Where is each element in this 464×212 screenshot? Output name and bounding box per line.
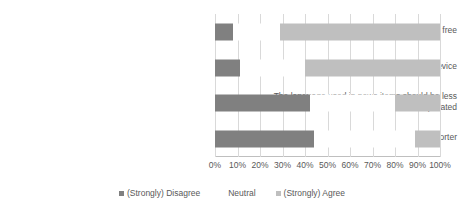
bar-segment[interactable] <box>314 131 415 148</box>
x-tick-label: 60% <box>341 160 358 170</box>
legend-item[interactable]: (Strongly) Agree <box>276 188 345 198</box>
bar-segment[interactable] <box>215 131 314 148</box>
x-tick-label: 40% <box>296 160 313 170</box>
bar-track <box>215 23 440 40</box>
legend-label: Neutral <box>228 188 255 198</box>
x-tick-label: 10% <box>229 160 246 170</box>
bar-segment[interactable] <box>215 95 310 112</box>
bar-track <box>215 59 440 76</box>
x-tick-label: 50% <box>319 160 336 170</box>
bar-segment[interactable] <box>240 59 305 76</box>
stacked-bar-chart: News should always be for free News shou… <box>0 0 464 212</box>
x-tick-label: 90% <box>409 160 426 170</box>
bar-row <box>215 86 440 122</box>
gridline <box>440 14 441 157</box>
bar-segment[interactable] <box>415 131 440 148</box>
legend-swatch-icon <box>276 191 281 196</box>
bar-segment[interactable] <box>305 59 440 76</box>
x-tick-label: 0% <box>209 160 221 170</box>
bar-segment[interactable] <box>395 95 440 112</box>
bar-segment[interactable] <box>280 23 440 40</box>
bar-segment[interactable] <box>233 23 280 40</box>
bar-row <box>215 14 440 50</box>
x-tick-label: 100% <box>429 160 451 170</box>
bar-segment[interactable] <box>310 95 396 112</box>
legend-label: (Strongly) Agree <box>284 188 345 198</box>
bar-row <box>215 50 440 86</box>
x-tick-label: 20% <box>251 160 268 170</box>
x-tick-label: 70% <box>364 160 381 170</box>
legend-swatch-icon <box>220 191 225 196</box>
plot-area <box>215 14 440 157</box>
legend-swatch-icon <box>119 191 124 196</box>
legend-label: (Strongly) Disagree <box>127 188 200 198</box>
bar-segment[interactable] <box>215 59 240 76</box>
bar-track <box>215 131 440 148</box>
legend-item[interactable]: (Strongly) Disagree <box>119 188 200 198</box>
legend-item[interactable]: Neutral <box>220 188 255 198</box>
x-tick-label: 30% <box>274 160 291 170</box>
x-tick-label: 80% <box>386 160 403 170</box>
chart-legend: (Strongly) DisagreeNeutral(Strongly) Agr… <box>0 188 464 198</box>
bar-segment[interactable] <box>215 23 233 40</box>
bar-track <box>215 95 440 112</box>
bar-row <box>215 121 440 157</box>
